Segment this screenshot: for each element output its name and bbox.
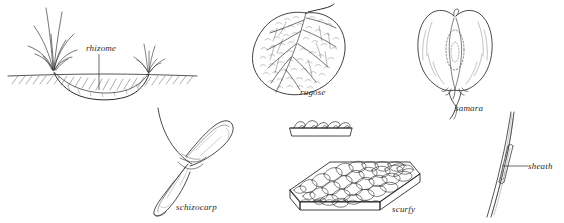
sheath-lower-rim [499, 182, 504, 184]
samara-seed-edge-right [455, 18, 462, 89]
scurfy-section-scales [294, 121, 350, 128]
figure-rugose [246, 0, 358, 100]
caption-scurfy: scurfy [392, 205, 415, 214]
samara-wing-striations [423, 22, 488, 84]
grass-tuft-left [28, 8, 77, 70]
scurfy-slab [290, 161, 420, 210]
caption-schizocarp: schizocarp [176, 203, 217, 212]
leaf-rugose-texture [260, 17, 339, 89]
rhizome-drawing [8, 2, 198, 107]
soil-hatching [12, 76, 193, 90]
scurfy-cross-section [290, 121, 352, 136]
scurfy-slab-front-face [300, 202, 380, 210]
schizocarp-lobe-upper [186, 121, 233, 166]
leader-line-rhizome [96, 54, 102, 90]
illustration-plate: rhizome [0, 0, 564, 223]
caption-rugose: rugose [300, 88, 326, 97]
caption-sheath: sheath [528, 162, 553, 171]
ground-line [8, 74, 197, 76]
figure-rhizome [8, 2, 198, 107]
leaf-outline [252, 12, 345, 95]
leaf-petiole [308, 4, 334, 12]
schizocarp-shading [160, 128, 229, 208]
caption-samara: samara [455, 104, 483, 113]
samara-notch [454, 9, 459, 16]
samara-seed-edge-left [449, 18, 455, 89]
schizocarp-stalk [158, 108, 192, 164]
grass-tuft-right [134, 44, 165, 72]
samara-wing-right [455, 10, 492, 90]
schizocarp-lobe-upper-inner [186, 125, 229, 158]
caption-rhizome: rhizome [86, 44, 116, 53]
samara-seed-body [446, 30, 464, 70]
leader-line-sheath [502, 162, 528, 170]
scurfy-drawing [286, 112, 426, 218]
figure-scurfy [286, 112, 426, 218]
rugose-leaf-drawing [246, 0, 358, 100]
samara-seed-inner [451, 42, 459, 62]
samara-base-bract [442, 88, 468, 99]
